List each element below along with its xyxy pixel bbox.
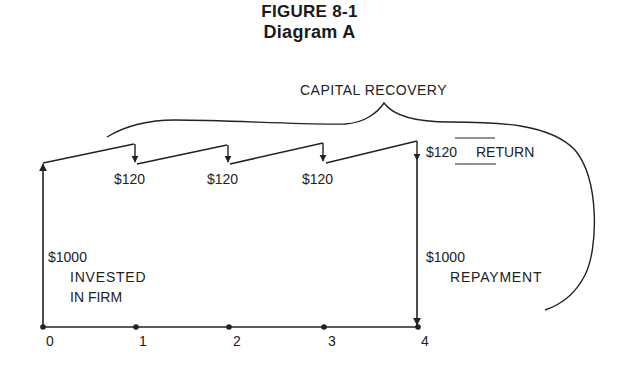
investment-amount: $1000 — [48, 249, 87, 265]
final-return-word: RETURN — [476, 144, 534, 160]
period-label-4: 4 — [421, 333, 429, 349]
investment-line2: IN FIRM — [70, 289, 122, 305]
period-label-0: 0 — [46, 333, 54, 349]
cash-flow-diagram: CAPITAL RECOVERY 0 1 2 3 4 $120 $120 $12… — [0, 0, 619, 368]
period-label-3: 3 — [328, 333, 336, 349]
final-return-amount: $120 — [426, 144, 457, 160]
balance-sawtooth — [43, 141, 417, 164]
repayment-word: REPAYMENT — [450, 269, 542, 285]
investment-line1: INVESTED — [70, 269, 146, 285]
period-dot-4 — [415, 324, 421, 330]
return-label-2: $120 — [207, 171, 238, 187]
period-dot-1 — [133, 324, 139, 330]
period-label-2: 2 — [233, 333, 241, 349]
period-dot-2 — [226, 324, 232, 330]
repayment-amount: $1000 — [426, 249, 465, 265]
period-dot-0 — [40, 324, 46, 330]
period-label-1: 1 — [139, 333, 147, 349]
capital-recovery-label: CAPITAL RECOVERY — [300, 82, 447, 98]
period-dot-3 — [321, 324, 327, 330]
return-label-3: $120 — [302, 171, 333, 187]
return-label-1: $120 — [114, 171, 145, 187]
